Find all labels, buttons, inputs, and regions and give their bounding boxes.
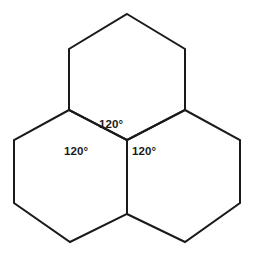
lower-right-hexagon [127,110,240,242]
hexagon-tessellation-svg [0,0,254,258]
angle-label-top-hexagon: 120° [99,119,123,131]
angle-label-lower-left-hexagon: 120° [64,146,88,158]
top-hexagon [69,14,185,140]
hexagon-diagram-canvas: 120° 120° 120° [0,0,254,258]
angle-label-lower-right-hexagon: 120° [132,146,156,158]
